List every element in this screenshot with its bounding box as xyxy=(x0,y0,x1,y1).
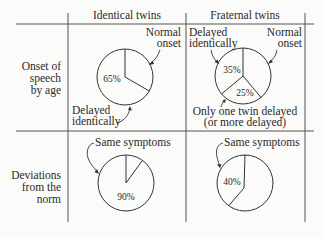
svg-text:from the: from the xyxy=(22,181,61,193)
arrowhead-icon xyxy=(217,164,222,168)
pie-identical-onset: 65% xyxy=(97,49,153,105)
pie-identical-deviation: 90% xyxy=(98,155,154,211)
svg-text:norm: norm xyxy=(37,193,61,205)
pie-fraternal-onset: 35% 25% xyxy=(215,48,271,104)
pct-identical-same: 90% xyxy=(117,192,135,202)
row-label-onset: Onset of speech by age xyxy=(22,60,62,97)
label-identical-normal-2: onset xyxy=(157,37,182,49)
row-label-deviations: Deviations from the norm xyxy=(11,169,61,205)
arrowhead-icon xyxy=(95,169,100,174)
header-fraternal-twins: Fraternal twins xyxy=(210,9,280,21)
pct-fraternal-one: 25% xyxy=(236,88,254,98)
arrow-fraternal-same xyxy=(216,143,223,167)
svg-text:by age: by age xyxy=(31,84,61,97)
label-identical-same-symptoms: Same symptoms xyxy=(95,136,171,149)
label-identical-delayed-2: identically xyxy=(72,115,121,128)
arrowhead-icon xyxy=(128,106,132,111)
label-fraternal-same-symptoms: Same symptoms xyxy=(224,136,300,149)
svg-text:Onset of: Onset of xyxy=(22,60,61,72)
svg-text:Deviations: Deviations xyxy=(11,169,61,181)
twin-comparison-diagram: Identical twins Fraternal twins Onset of… xyxy=(0,0,324,238)
pie-fraternal-deviation: 40% xyxy=(217,155,273,211)
label-fraternal-one-2: (or more delayed) xyxy=(204,116,287,129)
pct-fraternal-delayed: 35% xyxy=(223,65,241,75)
header-identical-twins: Identical twins xyxy=(93,9,162,21)
pct-identical-delayed: 65% xyxy=(103,74,121,84)
label-fraternal-delayed-2: identically xyxy=(189,37,238,50)
label-fraternal-normal-2: onset xyxy=(278,37,303,49)
pct-fraternal-same: 40% xyxy=(223,177,241,187)
